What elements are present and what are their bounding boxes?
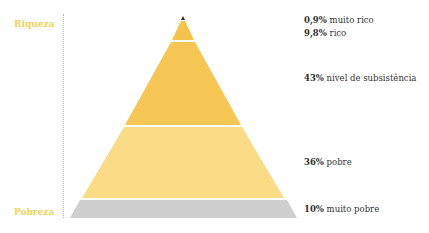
label-rico: 9,8% rico — [304, 28, 346, 38]
layer-muito-pobre — [70, 200, 297, 218]
wealth-pyramid — [0, 0, 429, 233]
layer-muito-rico — [181, 16, 185, 20]
label-pobre: 36% pobre — [304, 157, 352, 167]
label-subsistencia: 43% nível de subsistência — [304, 73, 416, 83]
label-muito-rico: 0,9% muito rico — [304, 15, 374, 25]
layer-subsistencia — [125, 42, 241, 125]
layer-rico — [172, 21, 194, 40]
layer-pobre — [82, 127, 284, 198]
label-muito-pobre: 10% muito pobre — [304, 204, 379, 214]
